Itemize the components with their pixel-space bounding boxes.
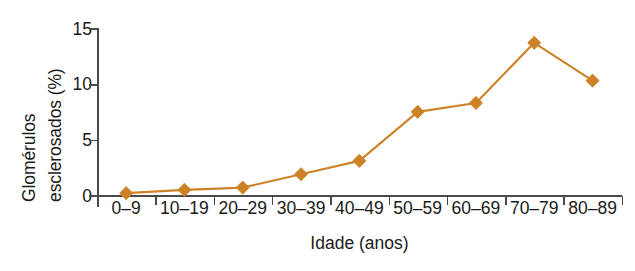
- data-point-marker: [294, 168, 307, 181]
- y-axis-line: [97, 28, 99, 197]
- x-tick-label-8: 80–89: [563, 200, 621, 218]
- x-tick-label-1: 10–19: [155, 200, 213, 218]
- x-axis-line: [97, 195, 622, 197]
- y-tick-label-10: 10: [58, 76, 92, 94]
- x-tick-label-3: 30–39: [272, 200, 330, 218]
- y-tick-label-15: 15: [58, 21, 92, 39]
- data-point-marker: [353, 154, 366, 167]
- x-tick-label-7: 70–79: [505, 200, 563, 218]
- y-tick-label-0: 0: [58, 188, 92, 206]
- y-tick-mark-10: [89, 84, 98, 86]
- data-point-marker: [236, 181, 249, 194]
- series-line: [126, 43, 592, 193]
- y-tick-label-5: 5: [58, 132, 92, 150]
- data-point-marker: [528, 36, 541, 49]
- x-tick-label-0: 0–9: [97, 200, 155, 218]
- data-point-marker: [586, 74, 599, 87]
- chart-figure: Glomérulos esclerosados (%) 0 5 10 15 0–…: [0, 0, 635, 271]
- data-series-layer: [0, 0, 635, 271]
- data-point-marker: [411, 105, 424, 118]
- data-point-marker: [469, 96, 482, 109]
- x-tick-mark-boundary-9: [622, 196, 624, 205]
- x-tick-label-5: 50–59: [389, 200, 447, 218]
- series-markers: [120, 36, 600, 200]
- y-axis-label-line-1: Glomérulos: [19, 114, 40, 202]
- y-axis-tick-labels: 0 5 10 15: [54, 0, 92, 271]
- x-tick-label-2: 20–29: [214, 200, 272, 218]
- x-tick-label-6: 60–69: [447, 200, 505, 218]
- x-tick-label-4: 40–49: [330, 200, 388, 218]
- y-tick-mark-5: [89, 140, 98, 142]
- y-tick-mark-15: [89, 28, 98, 30]
- x-axis-label: Idade (anos): [97, 233, 622, 254]
